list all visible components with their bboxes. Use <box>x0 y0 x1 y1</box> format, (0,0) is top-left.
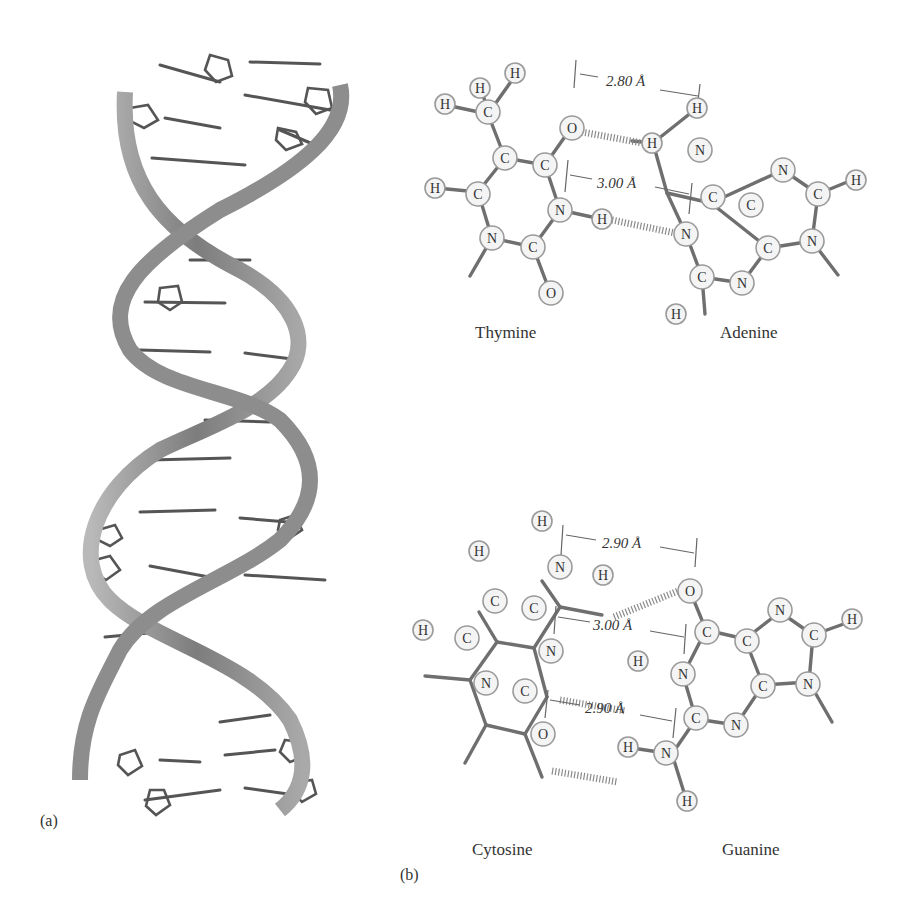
svg-text:N: N <box>546 644 556 659</box>
atom-N: N <box>674 222 698 246</box>
svg-text:C: C <box>746 198 755 213</box>
atom-H: H <box>618 737 638 757</box>
atom-N: N <box>688 138 712 162</box>
distance-label: 2.90 Å <box>602 535 642 551</box>
atom-C: C <box>513 679 537 703</box>
svg-text:O: O <box>567 121 577 136</box>
label-thymine: Thymine <box>475 323 536 343</box>
atom-C: C <box>690 265 714 289</box>
atom-H: H <box>505 63 525 83</box>
atom-C: C <box>521 235 545 259</box>
atom-H: H <box>687 98 707 118</box>
svg-text:N: N <box>661 746 671 761</box>
svg-text:C: C <box>483 105 492 120</box>
atom-C: C <box>533 153 557 177</box>
svg-text:C: C <box>742 634 751 649</box>
atom-H: H <box>532 511 552 531</box>
cytosine-guanine-pair: 2.90 Å 3.00 Å 2.90 Å H H N H C <box>413 511 862 811</box>
dimension-2-90-bottom: 2.90 Å <box>545 690 676 738</box>
atom-H: H <box>666 304 686 324</box>
svg-text:N: N <box>481 676 491 691</box>
atom-H: H <box>846 170 866 190</box>
svg-text:H: H <box>418 623 428 638</box>
atom-C: C <box>483 589 507 613</box>
helix-strands <box>80 85 341 810</box>
atom-H: H <box>593 565 613 585</box>
atom-H: H <box>469 541 489 561</box>
svg-text:H: H <box>692 101 702 116</box>
dimension-2-90-top: 2.90 Å <box>561 525 697 567</box>
svg-text:H: H <box>430 181 440 196</box>
svg-text:C: C <box>697 270 706 285</box>
distance-label: 3.00 Å <box>596 175 637 191</box>
hbond-2-90-top <box>614 591 678 617</box>
atom-N: N <box>730 271 754 295</box>
dna-helix-panel: (a) <box>40 20 370 820</box>
distance-label: 2.80 Å <box>606 73 646 89</box>
svg-text:H: H <box>682 794 692 809</box>
svg-text:N: N <box>775 603 785 618</box>
hbond-3-00 <box>612 220 675 233</box>
label-adenine: Adenine <box>720 323 778 343</box>
svg-text:N: N <box>807 234 817 249</box>
svg-text:H: H <box>851 173 861 188</box>
svg-text:C: C <box>473 187 482 202</box>
atom-H: H <box>628 651 648 671</box>
svg-text:C: C <box>540 158 549 173</box>
svg-text:H: H <box>597 212 607 227</box>
svg-text:N: N <box>555 203 565 218</box>
atom-C: C <box>695 620 719 644</box>
svg-text:O: O <box>685 584 695 599</box>
atom-H: H <box>413 620 433 640</box>
atom-C: C <box>455 626 479 650</box>
atom-H: H <box>592 209 612 229</box>
hbond-2-90-bottom <box>552 771 618 782</box>
svg-text:C: C <box>500 151 509 166</box>
atom-O: O <box>678 579 702 603</box>
atom-H: H <box>842 609 862 629</box>
svg-text:O: O <box>538 727 548 742</box>
atom-C: C <box>466 182 490 206</box>
atom-N: N <box>768 598 792 622</box>
thymine-adenine-pair: 2.80 Å 3.00 Å H H H C O C C H C N <box>425 60 866 324</box>
svg-text:C: C <box>702 625 711 640</box>
hbond-2-80 <box>582 132 642 143</box>
atom-N: N <box>800 229 824 253</box>
svg-text:C: C <box>462 631 471 646</box>
svg-text:H: H <box>598 568 608 583</box>
guanine-bonds <box>632 591 852 802</box>
svg-text:N: N <box>681 227 691 242</box>
atom-N: N <box>474 671 498 695</box>
atom-C: C <box>476 100 500 124</box>
distance-label: 2.90 Å <box>585 700 625 716</box>
svg-text:O: O <box>546 286 556 301</box>
svg-text:H: H <box>510 66 520 81</box>
cytosine-atoms: H H N H C C H C N N C O <box>413 511 613 746</box>
thymine-bonds <box>437 76 601 292</box>
panel-b-label: (b) <box>400 866 419 884</box>
svg-text:C: C <box>490 594 499 609</box>
atom-C: C <box>522 596 546 620</box>
svg-text:C: C <box>691 711 700 726</box>
atom-C: C <box>684 706 708 730</box>
label-cytosine: Cytosine <box>472 840 532 860</box>
svg-text:N: N <box>731 718 741 733</box>
label-guanine: Guanine <box>722 840 780 860</box>
atom-H: H <box>470 78 490 98</box>
panel-a-label: (a) <box>40 812 58 830</box>
atom-O: O <box>531 722 555 746</box>
svg-text:N: N <box>803 677 813 692</box>
svg-text:H: H <box>537 514 547 529</box>
atom-N: N <box>480 226 504 250</box>
svg-text:N: N <box>778 163 788 178</box>
distance-label: 3.00 Å <box>592 617 633 633</box>
svg-text:N: N <box>695 143 705 158</box>
atom-N: N <box>548 198 572 222</box>
svg-text:N: N <box>678 667 688 682</box>
atom-C: C <box>701 185 725 209</box>
svg-text:N: N <box>487 231 497 246</box>
atom-H: H <box>435 94 455 114</box>
svg-text:H: H <box>633 654 643 669</box>
atom-C: C <box>735 629 759 653</box>
atom-N: N <box>796 672 820 696</box>
